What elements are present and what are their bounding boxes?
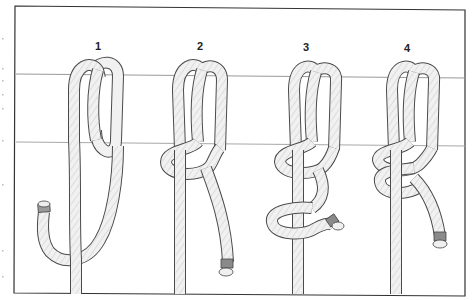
step-2-label: 2 — [197, 40, 203, 52]
step-1-label: 1 — [95, 40, 101, 52]
scan-margin-marks — [2, 38, 4, 278]
knot-diagram: 1 2 3 4 — [0, 0, 472, 300]
step-4-label: 4 — [404, 42, 410, 54]
step-3-label: 3 — [303, 41, 309, 53]
knot-illustration — [0, 0, 472, 300]
